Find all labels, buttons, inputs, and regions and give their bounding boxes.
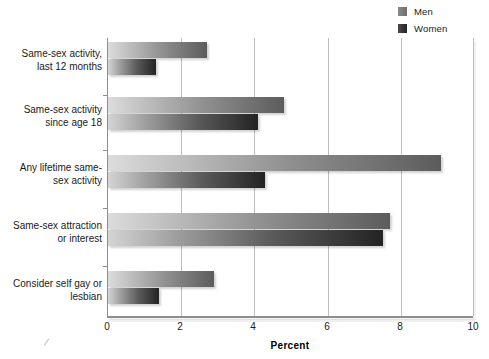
bar-men-1: [108, 97, 284, 113]
legend-item-men: Men: [398, 4, 448, 18]
legend-swatch-women-icon: [398, 24, 407, 33]
axis-tick-2: [103, 208, 108, 209]
axis-tick-1: [103, 150, 108, 151]
category-label-2-line-0: Any lifetime same-: [2, 161, 102, 174]
legend-item-women: Women: [398, 21, 448, 35]
category-label-4-line-0: Consider self gay or: [2, 277, 102, 290]
category-label-2: Any lifetime same- sex activity: [2, 161, 102, 187]
category-label-0-line-0: Same-sex activity,: [2, 47, 102, 60]
bar-women-1: [108, 114, 258, 130]
x-axis-title: Percent: [107, 340, 473, 351]
category-label-0: Same-sex activity, last 12 months: [2, 47, 102, 73]
chart-legend: Men Women: [398, 4, 448, 38]
bar-men-2: [108, 155, 441, 171]
bar-men-4: [108, 271, 214, 287]
bar-women-0: [108, 59, 156, 75]
bar-men-0: [108, 42, 207, 58]
x-tick-label-8: 8: [397, 321, 403, 332]
x-axis-line: [107, 316, 473, 318]
x-tick-label-6: 6: [324, 321, 330, 332]
category-label-1-line-1: since age 18: [2, 116, 102, 129]
category-label-4: Consider self gay or lesbian: [2, 277, 102, 303]
chart-figure: Men Women: [0, 0, 489, 359]
x-tick-label-2: 2: [177, 321, 183, 332]
category-label-2-line-1: sex activity: [2, 174, 102, 187]
gridline-6: [328, 38, 329, 316]
bar-men-3: [108, 213, 390, 229]
gridline-10: [473, 38, 474, 316]
legend-label-women: Women: [414, 23, 448, 34]
category-label-1: Same-sex activity since age 18: [2, 103, 102, 129]
x-tick-label-0: 0: [104, 321, 110, 332]
category-label-3: Same-sex attraction or interest: [2, 219, 102, 245]
x-tick-label-10: 10: [467, 321, 478, 332]
axis-tick-3: [103, 266, 108, 267]
page-scuff-mark: /: [43, 336, 50, 348]
bar-women-3: [108, 230, 383, 246]
bar-women-2: [108, 172, 265, 188]
legend-label-men: Men: [414, 6, 433, 17]
category-label-1-line-0: Same-sex activity: [2, 103, 102, 116]
x-tick-label-4: 4: [250, 321, 256, 332]
category-label-3-line-0: Same-sex attraction: [2, 219, 102, 232]
gridline-8: [401, 38, 402, 316]
legend-swatch-men-icon: [398, 7, 407, 16]
category-label-4-line-1: lesbian: [2, 290, 102, 303]
category-label-0-line-1: last 12 months: [2, 60, 102, 73]
x-axis-shadow: [109, 319, 475, 322]
bar-women-4: [108, 288, 159, 304]
category-label-3-line-1: or interest: [2, 232, 102, 245]
plot-area: [107, 38, 473, 316]
